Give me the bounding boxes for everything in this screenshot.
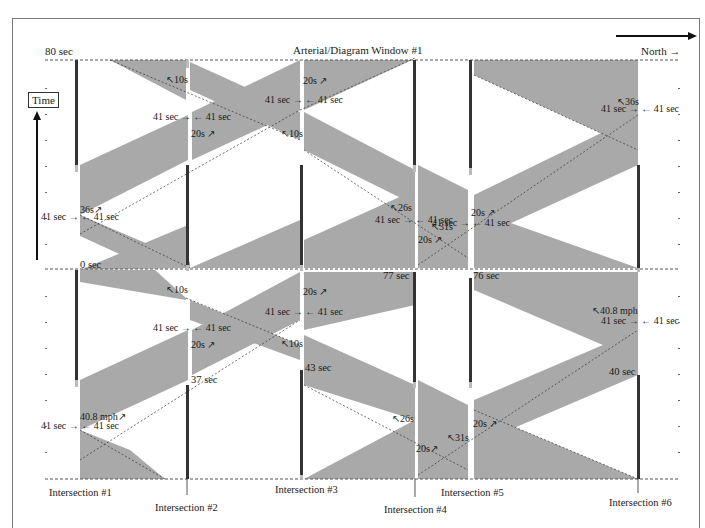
band-20s-label: 20s ↗ [473,419,497,429]
intersection-3-label: Intersection #3 [275,485,338,496]
time-axis-arrow-icon [33,111,41,260]
band-31s-label: ↖31s [447,433,469,443]
offset-i6: 40 sec [609,367,636,378]
green-41-i3-bottom: 41 sec → ← 41 sec [265,307,343,317]
green-41-i1-top: 41 sec → ← 41 sec [41,212,119,222]
green-41-i2-bottom: 41 sec → ← 41 sec [153,323,231,333]
band-10s-label: ↖10s [281,129,303,139]
band-20s-label: 20s ↗ [303,287,327,297]
band-20s-label: 20s ↗ [418,235,442,245]
offset-i5: 76 sec [473,271,500,282]
band-26s-label: ↖26s [390,203,412,213]
north-arrow-icon [616,32,697,40]
green-41-i2-top: 41 sec → ← 41 sec [153,112,231,122]
bandwidth-bands-upper [80,60,638,270]
band-20s-label: 20s ↗ [191,340,215,350]
band-20s-label: 20s↗ [416,444,438,454]
offset-i4: 77 sec [383,271,410,282]
intersection-4-label: Intersection #4 [384,505,447,516]
intersection-6-label: Intersection #6 [609,498,672,509]
band-10s-label: ↖10s [166,75,188,85]
intersection-2-label: Intersection #2 [155,503,218,514]
green-41-i6-top: 41 sec → ← 41 sec [601,104,679,114]
band-10s-label: ↖10s [166,285,188,295]
intersection-1-label: Intersection #1 [49,488,112,499]
band-20s-label: 20s ↗ [303,76,327,86]
window-title: Arterial/Diagram Window #1 [293,44,423,56]
offset-i1: 0 sec [80,260,101,271]
band-20s-label: 20s ↗ [191,129,215,139]
intersection-5-label: Intersection #5 [441,488,504,499]
band-26s-label: ↖26s [392,414,414,424]
green-41-i6-bottom: 41 sec → ← 41 sec [601,316,679,326]
intersection-leaders [187,479,638,497]
green-41-i3-top: 41 sec → ← 41 sec [265,95,343,105]
offset-i2: 37 sec [191,375,218,386]
offset-i3: 43 sec [305,363,332,374]
bandwidth-bands-lower [80,270,638,479]
north-label: North → [641,45,680,57]
green-41-i5-top: 41 sec → ← 41 sec [432,218,510,228]
time-axis-label: Time [28,92,59,108]
green-41-i1-bottom: 41 sec → ← 41 sec [41,421,119,431]
top-time-label: 80 sec [45,45,73,57]
band-10s-label: ↖10s [281,339,303,349]
